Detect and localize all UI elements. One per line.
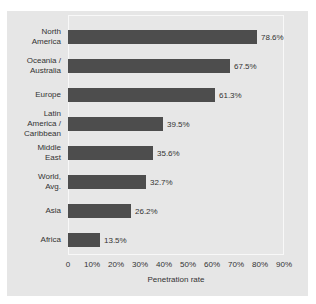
category-label: Europe (7, 90, 61, 100)
value-label: 26.2% (135, 207, 158, 216)
value-label: 39.5% (167, 120, 190, 129)
bar (68, 59, 230, 73)
bar (68, 175, 146, 189)
x-tick-label: 90% (269, 260, 299, 269)
chart-panel: North America 78.6% Oceania / Australia … (7, 11, 308, 296)
category-label: Asia (7, 206, 61, 216)
category-label: Oceania / Australia (7, 56, 61, 76)
bar-row: North America 78.6% (7, 30, 308, 44)
bar (68, 204, 131, 218)
bar-row: Africa 13.5% (7, 233, 308, 247)
category-label: Middle East (7, 143, 61, 163)
category-label: World, Avg. (7, 172, 61, 192)
value-label: 78.6% (261, 33, 284, 42)
bar-row: World, Avg. 32.7% (7, 175, 308, 189)
bar-row: Europe 61.3% (7, 88, 308, 102)
x-axis-title: Penetration rate (68, 275, 284, 284)
bar (68, 233, 100, 247)
bar (68, 117, 163, 131)
bar (68, 146, 153, 160)
value-label: 13.5% (104, 236, 127, 245)
plot-area (68, 15, 284, 255)
bar-row: Latin America / Caribbean 39.5% (7, 117, 308, 131)
value-label: 35.6% (157, 149, 180, 158)
category-label: Africa (7, 235, 61, 245)
category-label: North America (7, 27, 61, 47)
bar (68, 88, 215, 102)
value-label: 67.5% (234, 62, 257, 71)
value-label: 61.3% (219, 91, 242, 100)
chart-card: North America 78.6% Oceania / Australia … (0, 0, 316, 304)
bar-row: Oceania / Australia 67.5% (7, 59, 308, 73)
bar-row: Asia 26.2% (7, 204, 308, 218)
bar (68, 30, 257, 44)
category-label: Latin America / Caribbean (7, 109, 61, 139)
value-label: 32.7% (150, 178, 173, 187)
bar-row: Middle East 35.6% (7, 146, 308, 160)
